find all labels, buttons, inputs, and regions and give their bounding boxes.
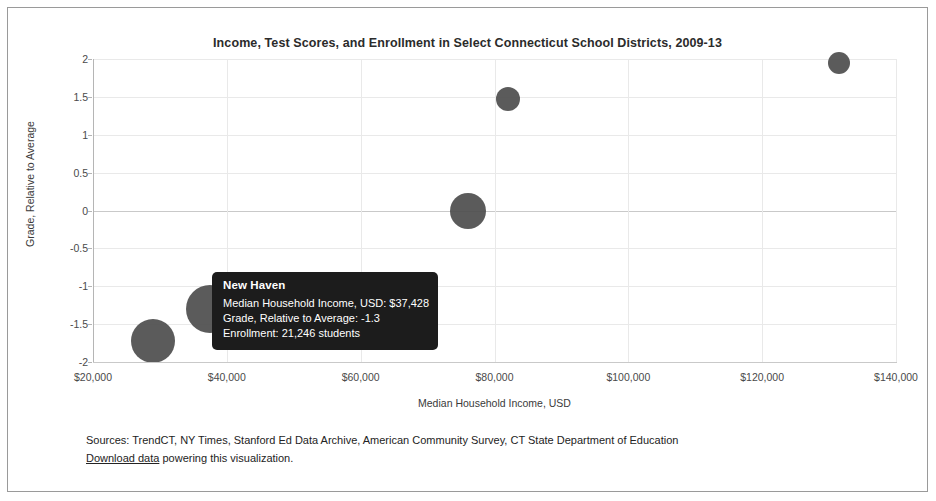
y-tick-mark xyxy=(88,97,92,98)
y-tick-label: -1 xyxy=(40,280,88,292)
x-tick-label: $100,000 xyxy=(606,371,650,383)
x-tick-label: $120,000 xyxy=(740,371,784,383)
visualization-frame: Income, Test Scores, and Enrollment in S… xyxy=(7,7,928,492)
y-axis-line xyxy=(93,59,94,363)
y-tick-mark xyxy=(88,211,92,212)
tooltip-row-grade: Grade, Relative to Average: -1.3 xyxy=(223,311,427,326)
x-tick-label: $80,000 xyxy=(476,371,514,383)
tooltip-title: New Haven xyxy=(223,279,427,291)
x-tick-label: $20,000 xyxy=(74,371,112,383)
data-bubble[interactable] xyxy=(828,52,850,74)
data-bubble[interactable] xyxy=(131,319,175,363)
chart-container: Income, Test Scores, and Enrollment in S… xyxy=(8,8,927,491)
chart-title: Income, Test Scores, and Enrollment in S… xyxy=(8,36,927,50)
y-tick-label: 1 xyxy=(40,129,88,141)
tooltip-row-income: Median Household Income, USD: $37,428 xyxy=(223,296,427,311)
gridline-vertical xyxy=(762,59,763,362)
x-tick-label: $40,000 xyxy=(208,371,246,383)
y-tick-label: 2 xyxy=(40,53,88,65)
x-axis-ticks: $20,000$40,000$60,000$80,000$100,000$120… xyxy=(93,371,896,389)
y-tick-label: 1.5 xyxy=(40,91,88,103)
x-axis-title: Median Household Income, USD xyxy=(93,397,896,409)
gridline-vertical xyxy=(896,59,897,362)
y-tick-mark xyxy=(88,286,92,287)
footer: Sources: TrendCT, NY Times, Stanford Ed … xyxy=(86,432,886,466)
download-line: Download data powering this visualizatio… xyxy=(86,450,886,466)
y-tick-mark xyxy=(88,362,92,363)
y-tick-label: -1.5 xyxy=(40,318,88,330)
y-tick-mark xyxy=(88,173,92,174)
gridline-vertical xyxy=(628,59,629,362)
y-tick-label: 0 xyxy=(40,205,88,217)
y-tick-mark xyxy=(88,135,92,136)
y-tick-mark xyxy=(88,59,92,60)
y-tick-mark xyxy=(88,324,92,325)
data-bubble[interactable] xyxy=(450,193,486,229)
tooltip: New Haven Median Household Income, USD: … xyxy=(212,272,438,350)
y-tick-mark xyxy=(88,248,92,249)
y-axis-title: Grade, Relative to Average xyxy=(24,54,36,314)
y-tick-label: -0.5 xyxy=(40,242,88,254)
x-tick-label: $140,000 xyxy=(874,371,918,383)
x-tick-label: $60,000 xyxy=(342,371,380,383)
download-data-link[interactable]: Download data xyxy=(86,452,159,464)
data-bubble[interactable] xyxy=(496,87,520,111)
y-axis-ticks: 21.510.50-0.5-1-1.5-2 xyxy=(33,59,88,362)
y-tick-label: 0.5 xyxy=(40,167,88,179)
y-tick-label: -2 xyxy=(40,356,88,368)
gridline-vertical xyxy=(495,59,496,362)
tooltip-row-enrollment: Enrollment: 21,246 students xyxy=(223,326,427,341)
x-axis-line xyxy=(93,362,897,363)
download-line-rest: powering this visualization. xyxy=(159,452,293,464)
sources-text: Sources: TrendCT, NY Times, Stanford Ed … xyxy=(86,432,886,448)
